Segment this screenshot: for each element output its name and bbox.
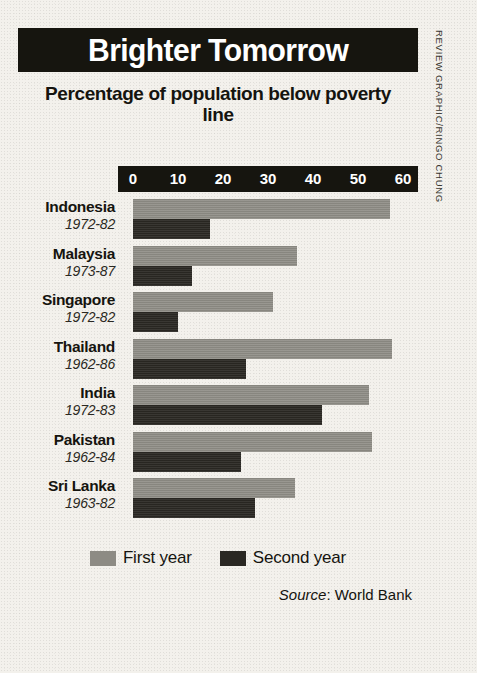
bar-first-year [133,478,295,498]
country-label: Thailand [18,338,115,356]
chart-plot-area: Indonesia1972-82Malaysia1973-87Singapore… [18,198,418,536]
legend-swatch-second-year [220,551,246,566]
bar-second-year [133,312,178,332]
year-range-label: 1963-82 [18,495,115,512]
bar-pair [133,339,418,381]
bar-first-year [133,339,392,359]
chart-row: Indonesia1972-82 [18,198,418,245]
bar-pair [133,246,418,288]
graphic-credit: REVIEW GRAPHIC/RINGO CHUNG [434,30,445,203]
bar-first-year [133,385,369,405]
x-axis-tick-label: 30 [260,169,277,189]
bar-pair [133,432,418,474]
x-axis-bar: 0102030405060 [118,166,418,192]
bar-second-year [133,452,241,472]
title-banner: Brighter Tomorrow [18,28,418,72]
x-axis-tick-label: 10 [170,169,187,189]
chart-row: Sri Lanka1963-82 [18,477,418,524]
bar-first-year [133,246,297,266]
bar-first-year [133,199,390,219]
bar-second-year [133,405,322,425]
country-label: Singapore [18,291,115,309]
chart-row: Thailand1962-86 [18,338,418,385]
x-axis-tick-label: 20 [215,169,232,189]
chart-row: Malaysia1973-87 [18,245,418,292]
year-range-label: 1962-84 [18,449,115,466]
legend-label-second-year: Second year [253,548,346,568]
row-label-block: Sri Lanka1963-82 [18,477,121,512]
source-separator: : [326,586,334,603]
year-range-label: 1962-86 [18,356,115,373]
source-value: World Bank [335,586,412,603]
legend-label-first-year: First year [123,548,192,568]
country-label: Indonesia [18,198,115,216]
x-axis-tick-label: 60 [395,169,412,189]
chart-row: Singapore1972-82 [18,291,418,338]
country-label: Pakistan [18,431,115,449]
year-range-label: 1973-87 [18,263,115,280]
bar-second-year [133,266,192,286]
source-note: Source: World Bank [279,586,412,603]
chart-row: India1972-83 [18,384,418,431]
page-title: Brighter Tomorrow [88,35,348,66]
year-range-label: 1972-82 [18,309,115,326]
source-label: Source [279,586,327,603]
row-label-block: Indonesia1972-82 [18,198,121,233]
country-label: India [18,384,115,402]
bar-pair [133,199,418,241]
year-range-label: 1972-82 [18,216,115,233]
x-axis-tick-label: 0 [129,169,137,189]
row-label-block: India1972-83 [18,384,121,419]
legend-item-second-year: Second year [220,548,346,568]
bar-second-year [133,219,210,239]
country-label: Sri Lanka [18,477,115,495]
row-label-block: Malaysia1973-87 [18,245,121,280]
year-range-label: 1972-83 [18,402,115,419]
country-label: Malaysia [18,245,115,263]
bar-first-year [133,432,372,452]
chart-legend: First year Second year [18,548,418,568]
chart-figure: Brighter Tomorrow Percentage of populati… [18,28,418,653]
legend-swatch-first-year [90,551,116,566]
row-label-block: Pakistan1962-84 [18,431,121,466]
row-label-block: Thailand1962-86 [18,338,121,373]
newsprint-page: Brighter Tomorrow Percentage of populati… [0,0,477,673]
bar-pair [133,385,418,427]
bar-second-year [133,359,246,379]
bar-pair [133,478,418,520]
row-label-block: Singapore1972-82 [18,291,121,326]
bar-pair [133,292,418,334]
chart-subtitle: Percentage of population below poverty l… [40,83,396,126]
legend-item-first-year: First year [90,548,192,568]
x-axis-tick-label: 40 [305,169,322,189]
x-axis-tick-label: 50 [350,169,367,189]
bar-first-year [133,292,273,312]
bar-second-year [133,498,255,518]
chart-row: Pakistan1962-84 [18,431,418,478]
